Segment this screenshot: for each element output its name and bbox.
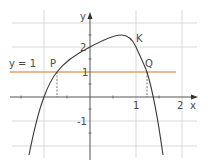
tick-label-y1: 1 — [82, 67, 88, 78]
point-label-p: P — [50, 58, 56, 69]
grid — [12, 10, 197, 158]
line-label-y-equals-1: y = 1 — [9, 58, 36, 69]
y-axis-arrow-icon — [88, 12, 93, 19]
x-axis-label: x — [190, 100, 196, 111]
y-axis-label: y — [80, 11, 86, 22]
tick-label-y2: 2 — [80, 42, 86, 53]
point-label-k: K — [136, 33, 143, 44]
tick-label-ym1: -1 — [77, 116, 87, 127]
tick-label-x2: 2 — [177, 100, 183, 111]
function-curve — [29, 35, 163, 155]
tick-label-x1: 1 — [133, 100, 139, 111]
point-label-q: Q — [145, 58, 153, 69]
function-graph: y x 1 2 2 1 -1 y = 1 P Q K — [0, 0, 208, 165]
axes — [10, 16, 194, 160]
dashed-drop-lines — [57, 72, 147, 97]
x-axis-arrow-icon — [191, 95, 198, 100]
